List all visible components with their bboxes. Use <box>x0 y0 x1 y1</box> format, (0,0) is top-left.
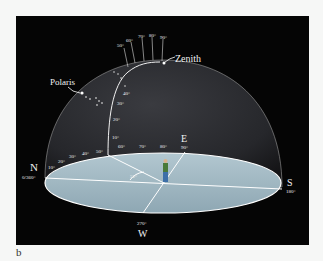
svg-text:70°: 70° <box>139 144 146 149</box>
svg-text:10°: 10° <box>48 165 55 170</box>
svg-text:40°: 40° <box>82 151 89 156</box>
polaris-label: Polaris <box>50 77 75 87</box>
east-degree: 90° <box>181 145 188 150</box>
north-label: N <box>30 161 38 173</box>
zenith-label: Zenith <box>175 53 201 64</box>
svg-text:10°: 10° <box>112 135 119 140</box>
east-label: E <box>181 133 187 144</box>
svg-text:80°: 80° <box>149 33 156 38</box>
svg-text:70°: 70° <box>138 34 145 39</box>
svg-text:50°: 50° <box>96 149 103 154</box>
svg-text:50°: 50° <box>117 43 124 48</box>
svg-text:30°: 30° <box>69 154 76 159</box>
svg-text:20°: 20° <box>58 159 65 164</box>
svg-text:40°: 40° <box>123 91 130 96</box>
svg-text:30°: 30° <box>117 101 124 106</box>
west-label: W <box>138 228 148 239</box>
svg-text:80°: 80° <box>160 144 167 149</box>
west-degree: 270° <box>137 221 147 226</box>
celestial-sphere-diagram: Zenith Polaris N 0/360° S 180° E 90° W 2… <box>0 0 323 261</box>
svg-text:20°: 20° <box>113 117 120 122</box>
zenith-point <box>163 62 166 65</box>
south-label: S <box>287 177 293 188</box>
svg-text:60°: 60° <box>118 144 125 149</box>
altitude-angle-label: 52° <box>130 174 137 179</box>
svg-text:60°: 60° <box>126 38 133 43</box>
svg-text:90°: 90° <box>160 35 167 40</box>
figure-label: b <box>16 246 22 258</box>
south-degree: 180° <box>286 189 296 194</box>
north-degree: 0/360° <box>22 175 35 180</box>
